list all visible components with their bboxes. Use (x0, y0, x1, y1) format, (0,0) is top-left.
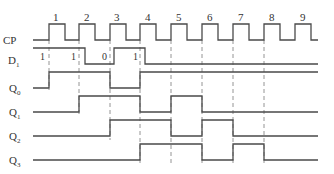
label-q1: Q (9, 106, 17, 118)
pulse-number-5: 5 (176, 11, 182, 23)
waveform-cp (33, 24, 318, 40)
label-q2-sub: 2 (17, 137, 21, 145)
label-d1: D (8, 54, 16, 66)
waveform-q1 (33, 96, 318, 112)
waveform-q2 (33, 120, 318, 136)
pulse-number-2: 2 (84, 11, 90, 23)
pulse-number-4: 4 (145, 11, 151, 23)
waveform-q3 (33, 144, 318, 160)
label-q2: Q (9, 130, 17, 142)
label-q0: Q (9, 82, 17, 94)
label-q0-sub: 0 (17, 89, 21, 97)
label-q1-sub: 1 (17, 113, 21, 121)
label-q3: Q (9, 154, 17, 166)
pulse-number-6: 6 (207, 11, 213, 23)
d1-value-2: 1 (71, 51, 76, 62)
pulse-number-8: 8 (269, 11, 275, 23)
d1-value-1: 1 (40, 51, 45, 62)
timing-diagram: CP D 1 Q 0 Q 1 Q 2 Q 3 1 2 3 4 5 6 7 8 9… (0, 0, 334, 174)
d1-value-3: 0 (102, 51, 107, 62)
label-cp: CP (3, 34, 16, 46)
pulse-number-7: 7 (238, 11, 244, 23)
d1-value-4: 1 (133, 51, 138, 62)
pulse-number-3: 3 (114, 11, 120, 23)
label-d1-sub: 1 (16, 61, 20, 69)
label-q3-sub: 3 (17, 161, 21, 169)
waveform-q0 (33, 72, 318, 88)
pulse-number-1: 1 (53, 11, 59, 23)
pulse-number-9: 9 (300, 11, 306, 23)
